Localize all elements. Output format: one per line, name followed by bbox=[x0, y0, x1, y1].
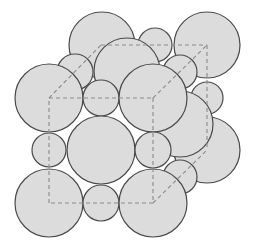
fcc-unit-cell-diagram bbox=[0, 0, 254, 250]
atom-front-face-center bbox=[67, 116, 135, 184]
diagram-canvas bbox=[0, 0, 254, 250]
